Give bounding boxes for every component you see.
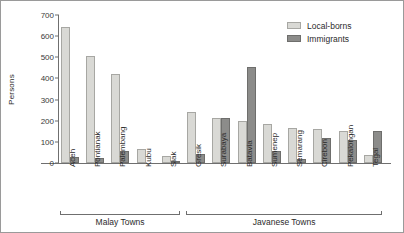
y-axis-tickmark-700 <box>55 15 59 16</box>
x-tick-label-text: Sumenep <box>270 133 279 167</box>
x-tick-label-text: Pekalongan <box>346 125 355 167</box>
bar-group-aceh <box>61 27 79 163</box>
legend-item-immigrants: Immigrants <box>287 33 351 44</box>
bar-aceh-local-borns <box>61 27 70 163</box>
x-tick-label-text: Cirebon <box>320 139 329 167</box>
legend-swatch-icon-local <box>287 22 301 29</box>
y-axis-tickmark-100 <box>55 141 59 142</box>
y-axis-tickmark-400 <box>55 78 59 79</box>
y-axis-tickmark-300 <box>55 99 59 100</box>
x-tick-label-text: Batavia <box>245 140 254 167</box>
y-axis-tickmark-500 <box>55 57 59 58</box>
group-label-javanese-towns: Javanese Towns <box>186 217 382 227</box>
y-axis-label: Persons <box>3 49 19 129</box>
legend-swatch-icon-imm <box>287 35 301 42</box>
y-axis-tickmark-0 <box>55 163 59 164</box>
chart-legend: Local-bornsImmigrants <box>287 20 351 46</box>
x-tick-label-text: Semarang <box>295 130 304 167</box>
y-axis-label-text: Persons <box>7 74 16 105</box>
legend-item-local-borns: Local-borns <box>287 20 351 31</box>
y-axis-tickmark-200 <box>55 120 59 121</box>
x-tick-label-tegal: Tegal <box>362 167 404 181</box>
legend-label: Local-borns <box>307 21 351 31</box>
x-tick-label-text: Tegal <box>371 148 380 167</box>
bar-chart-figure: Persons 0100200300400500600700 AcehPonti… <box>0 0 404 233</box>
x-tick-label-text: Kubu <box>144 148 153 167</box>
x-tick-label-text: Palembang <box>118 127 127 167</box>
group-label-malay-towns: Malay Towns <box>60 217 180 227</box>
x-tick-label-text: Aceh <box>68 149 77 167</box>
x-tick-label-text: Siak <box>169 151 178 167</box>
x-tick-label-text: Pontianak <box>93 131 102 167</box>
x-tick-label-text: Gresik <box>194 144 203 167</box>
x-tick-label-text: Surabaya <box>219 133 228 167</box>
y-axis-tickmark-600 <box>55 36 59 37</box>
bracket-javanese-towns <box>186 214 382 215</box>
bracket-malay-towns <box>60 214 180 215</box>
legend-label: Immigrants <box>307 34 349 44</box>
